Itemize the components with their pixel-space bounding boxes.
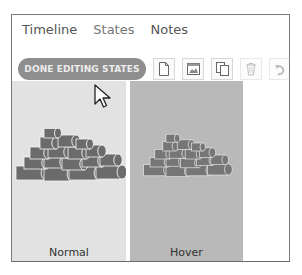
log-end: [224, 164, 232, 175]
state-label-normal: Normal: [12, 246, 126, 259]
tab-states[interactable]: States: [93, 22, 134, 37]
image-state-icon: [187, 63, 200, 75]
image-state-button[interactable]: [182, 58, 204, 80]
done-editing-states-button[interactable]: DONE EDITING STATES: [18, 58, 146, 80]
log-end: [209, 148, 216, 158]
undo-button[interactable]: [269, 58, 290, 80]
log-end: [114, 154, 122, 166]
log-end: [222, 155, 229, 165]
delete-state-button[interactable]: [240, 58, 262, 80]
log-pile-image: [12, 129, 126, 189]
log-end: [55, 129, 62, 138]
new-state-button[interactable]: [153, 58, 175, 80]
undo-icon: [274, 63, 286, 76]
tab-notes[interactable]: Notes: [150, 22, 188, 37]
log-end: [98, 145, 106, 157]
tab-bar: Timeline States Notes: [22, 22, 204, 37]
delete-state-icon: [245, 62, 257, 76]
mouse-pointer-icon: [94, 84, 112, 110]
log-pile-image-hover: [130, 129, 243, 189]
state-hover[interactable]: Hover: [130, 81, 243, 262]
log-end: [200, 143, 206, 151]
log-end: [174, 134, 180, 142]
states-panel-window: Timeline States Notes DONE EDITING STATE…: [11, 14, 290, 262]
duplicate-state-icon: [216, 62, 229, 76]
tab-timeline[interactable]: Timeline: [22, 22, 77, 37]
states-toolbar: DONE EDITING STATES: [18, 57, 290, 81]
new-state-icon: [158, 62, 170, 76]
log-end: [87, 139, 94, 149]
state-label-hover: Hover: [130, 246, 243, 259]
log-end: [117, 165, 126, 179]
duplicate-state-button[interactable]: [211, 58, 233, 80]
